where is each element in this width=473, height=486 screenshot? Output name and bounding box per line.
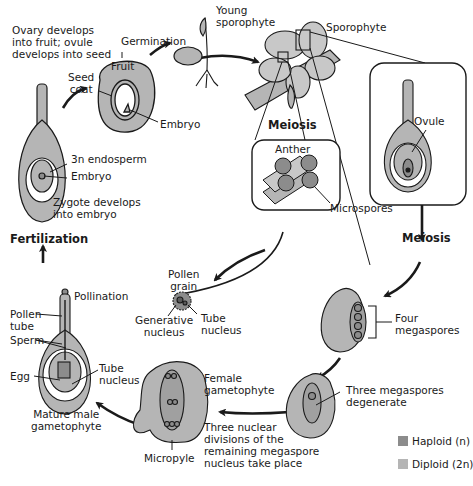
label-sperm: Sperm	[10, 334, 44, 346]
label-zygote: Zygote develops into embryo	[53, 196, 141, 220]
label-germination: Germination	[121, 35, 186, 47]
label-pollen-tube: Pollen tube	[10, 308, 41, 332]
label-microspores: Microspores	[330, 202, 393, 214]
label-meiosis-ovule: Meiosis	[402, 232, 451, 244]
label-egg: Egg	[10, 370, 30, 382]
flower-sporophyte	[245, 22, 340, 110]
label-seed-coat: Seed coat	[68, 71, 94, 95]
label-embryo: Embryo	[71, 170, 111, 182]
label-mature-male-gametophyte: Mature male gametophyte	[31, 408, 101, 432]
label-embryo-seed: Embryo	[160, 118, 200, 130]
label-tube-nucleus: Tube nucleus	[99, 362, 140, 386]
label-meiosis-anther: Meiosis	[268, 119, 317, 131]
label-anther: Anther	[275, 143, 310, 155]
label-three-nuclear-divisions: Three nuclear divisions of the remaining…	[204, 421, 319, 469]
female-gametophyte	[133, 362, 207, 443]
pollinated-ovule	[39, 289, 91, 414]
label-endosperm: 3n endosperm	[71, 153, 147, 165]
pollen-grain	[173, 292, 191, 310]
seed	[174, 47, 202, 65]
label-tube-nucleus-pollen: Tube nucleus	[201, 312, 242, 336]
label-sporophyte: Sporophyte	[326, 21, 386, 33]
label-young-sporophyte: Young sporophyte	[216, 4, 275, 28]
label-female-gametophyte: Female gametophyte	[204, 372, 274, 396]
legend-swatch-diploid	[398, 459, 408, 469]
label-generative-nucleus: Generative nucleus	[135, 314, 193, 338]
label-fertilization: Fertilization	[10, 233, 88, 245]
label-fruit: Fruit	[111, 60, 134, 72]
label-ovule: Ovule	[414, 115, 445, 127]
legend-swatch-haploid	[398, 436, 408, 446]
label-ovary-develops: Ovary develops into fruit; ovule develop…	[12, 24, 111, 60]
label-three-megaspores-degenerate: Three megaspores degenerate	[346, 384, 444, 408]
legend-haploid: Haploid (n)	[412, 435, 470, 447]
label-micropyle: Micropyle	[144, 452, 195, 464]
label-four-megaspores: Four megaspores	[395, 312, 459, 336]
legend-diploid: Diploid (2n)	[412, 458, 473, 470]
label-pollen-grain: Pollen grain	[168, 268, 199, 292]
four-megaspores	[321, 288, 376, 352]
label-pollination: Pollination	[74, 290, 128, 302]
